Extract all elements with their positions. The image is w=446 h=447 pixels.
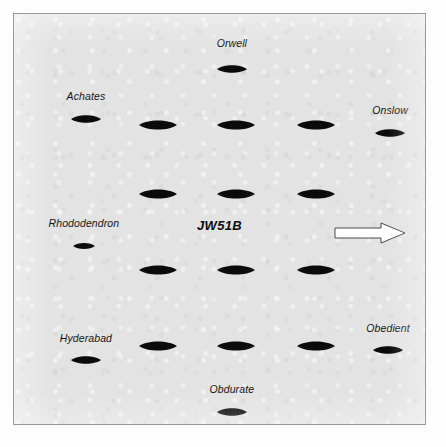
ship-label-onslow: Onslow: [372, 104, 408, 116]
ship-label-hyderabad: Hyderabad: [60, 332, 112, 344]
merchant-ship-symbol-r4c2: [217, 340, 255, 352]
merchant-ship-symbol-r2c2: [217, 188, 255, 200]
merchant-ship-symbol-r1c3: [297, 119, 335, 131]
ship-label-achates: Achates: [67, 90, 106, 102]
ship-symbol-obdurate: [217, 407, 247, 417]
ship-symbol-obedient: [373, 345, 403, 355]
convoy-formation-diagram: OrwellAchatesOnslowRhododendronHyderabad…: [0, 0, 446, 447]
merchant-ship-symbol-r1c2: [217, 119, 255, 131]
merchant-ship-symbol-r4c1: [139, 340, 177, 352]
merchant-ship-symbol-r2c1: [139, 188, 177, 200]
ship-symbol-hyderabad: [71, 355, 101, 365]
ship-symbol-rhododendron: [73, 242, 95, 250]
merchant-ship-symbol-r4c3: [297, 340, 335, 352]
merchant-ship-symbol-r2c3: [297, 188, 335, 200]
ship-label-rhododendron: Rhododendron: [49, 217, 120, 229]
ship-symbol-orwell: [217, 64, 247, 74]
merchant-ship-symbol-r3c1: [139, 264, 177, 276]
convoy-designation-label: JW51B: [197, 218, 242, 233]
ship-label-orwell: Orwell: [217, 37, 247, 49]
ship-symbol-onslow: [375, 128, 405, 138]
diagram-paper-field: OrwellAchatesOnslowRhododendronHyderabad…: [13, 13, 426, 425]
ship-symbol-achates: [71, 114, 101, 124]
direction-of-travel-arrow: [334, 222, 406, 244]
ship-label-obdurate: Obdurate: [210, 383, 255, 395]
merchant-ship-symbol-r3c2: [217, 264, 255, 276]
ship-label-obedient: Obedient: [366, 322, 409, 334]
merchant-ship-symbol-r1c1: [139, 119, 177, 131]
merchant-ship-symbol-r3c3: [297, 264, 335, 276]
